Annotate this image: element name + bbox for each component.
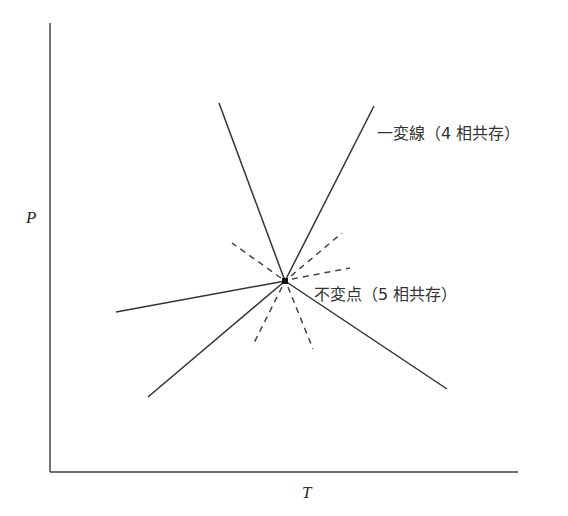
univariant-line-label: 一変線（4 相共存） — [377, 124, 520, 143]
dashed-ext-right-line — [292, 268, 350, 279]
solid-lower-left-line — [148, 281, 285, 397]
x-axis-label: T — [302, 483, 313, 502]
solid-upper-right-line — [285, 106, 374, 281]
y-axis-label: P — [25, 208, 36, 227]
invariant-point-label: 不変点（5 相共存） — [314, 285, 457, 304]
axes — [50, 23, 518, 472]
solid-left-line — [116, 281, 285, 312]
univariant-lines — [116, 103, 447, 397]
invariant-point-marker — [282, 278, 288, 284]
phase-diagram: P T 一変線（4 相共存） 不変点（5 相共存） — [0, 0, 568, 516]
solid-upper-left-line — [219, 103, 285, 281]
